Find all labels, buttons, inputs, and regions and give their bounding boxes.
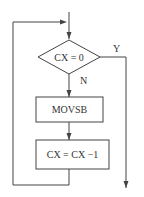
yes-label: Y: [113, 43, 120, 54]
decision-node: CX = 0: [38, 40, 100, 74]
movsb-label: MOVSB: [52, 104, 88, 115]
entry-arrow: [67, 12, 72, 39]
no-label: N: [80, 75, 87, 86]
process-arrow: [67, 122, 72, 140]
no-branch-arrow: [67, 74, 72, 97]
movsb-node: MOVSB: [36, 97, 103, 122]
decision-label: CX = 0: [54, 52, 84, 63]
decrement-label: CX = CX −1: [47, 149, 99, 160]
decrement-node: CX = CX −1: [36, 140, 109, 169]
flowchart: CX = 0 Y N MOVSB CX = CX −1: [0, 0, 144, 197]
